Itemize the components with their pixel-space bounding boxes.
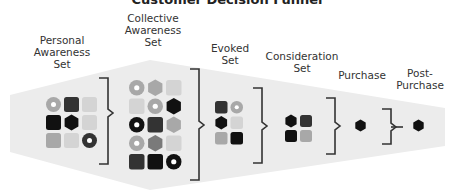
square-icon (129, 99, 145, 115)
donut-icon (129, 117, 145, 133)
square-icon (231, 117, 244, 130)
donut-icon (46, 97, 61, 112)
square-icon (148, 154, 164, 170)
square-icon (231, 132, 244, 145)
square-icon (129, 154, 145, 170)
square-icon (82, 115, 97, 130)
square-icon (46, 115, 61, 130)
square-icon (166, 136, 182, 152)
square-icon (64, 97, 79, 112)
donut-icon (148, 99, 164, 115)
donut-icon (231, 101, 244, 114)
square-icon (215, 132, 228, 145)
donut-icon (82, 133, 97, 148)
square-icon (166, 80, 182, 96)
square-icon (64, 133, 79, 148)
square-icon (215, 101, 228, 114)
square-icon (82, 97, 97, 112)
square-icon (285, 130, 297, 142)
customer-decision-funnel-diagram: Customer Decision Funnel Personal Awaren… (0, 0, 454, 196)
square-icon (46, 133, 61, 148)
funnel-graphic (0, 0, 454, 196)
square-icon (148, 117, 164, 133)
donut-icon (166, 154, 182, 170)
square-icon (300, 130, 312, 142)
donut-icon (129, 136, 145, 152)
donut-icon (129, 80, 145, 96)
square-icon (300, 115, 312, 127)
